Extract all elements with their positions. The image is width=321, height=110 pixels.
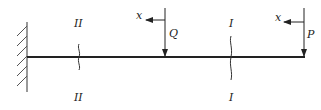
x-label-P: x bbox=[275, 11, 282, 24]
section-II-top-label: II bbox=[73, 17, 83, 30]
load-P-label: P bbox=[306, 28, 315, 41]
load-Q-label: Q bbox=[169, 27, 178, 40]
fixed-wall-support bbox=[17, 22, 27, 92]
cantilever-beam-diagram: II II I I x Q x P bbox=[0, 0, 321, 110]
section-II-bottom-label: II bbox=[73, 91, 83, 104]
section-II-mark bbox=[78, 44, 79, 70]
x-label-Q: x bbox=[136, 9, 143, 22]
section-I-bottom-label: I bbox=[228, 91, 234, 104]
section-I-top-label: I bbox=[228, 17, 234, 30]
